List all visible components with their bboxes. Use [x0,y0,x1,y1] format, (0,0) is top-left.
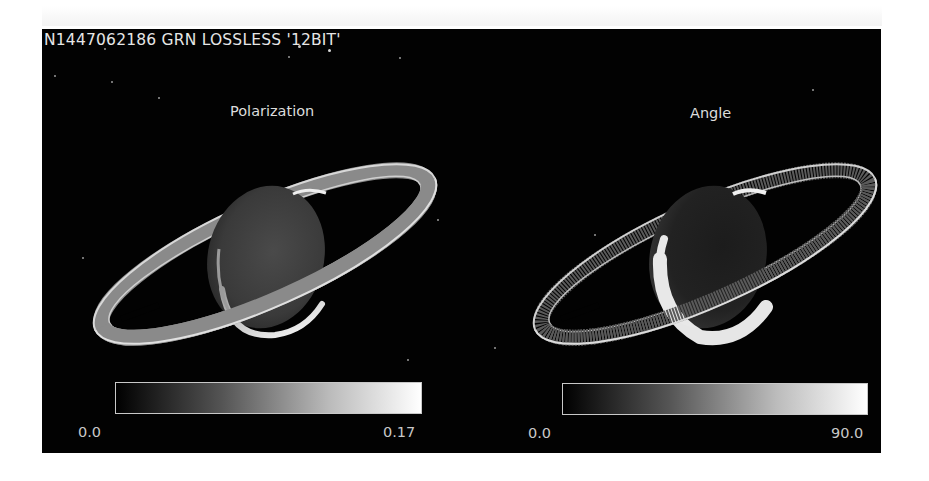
panel-title-angle: Angle [690,105,731,121]
saturn-polarization-image [90,139,440,369]
star [288,56,290,58]
star [54,75,56,77]
image-panel: N1447062186 GRN LOSSLESS '12BIT' Polariz… [42,29,881,453]
faded-bleedthrough-strip [42,6,882,26]
polarization-colorbar [115,382,422,414]
image-header: N1447062186 GRN LOSSLESS '12BIT' [44,31,341,49]
colorbar-gradient [116,383,421,413]
angle-colorbar [562,383,868,415]
panel-title-polarization: Polarization [230,103,314,119]
star [494,347,496,349]
star [812,89,814,91]
star [328,49,331,52]
colorbar-gradient [563,384,867,414]
star [82,257,84,259]
colorbar-max-label: 90.0 [831,425,863,441]
saturn-angle-image [530,139,880,369]
star [104,48,106,50]
star [111,81,113,83]
star [399,57,401,59]
colorbar-min-label: 0.0 [528,425,551,441]
star [158,97,160,99]
star [298,45,301,48]
colorbar-min-label: 0.0 [78,424,101,440]
colorbar-max-label: 0.17 [383,424,415,440]
